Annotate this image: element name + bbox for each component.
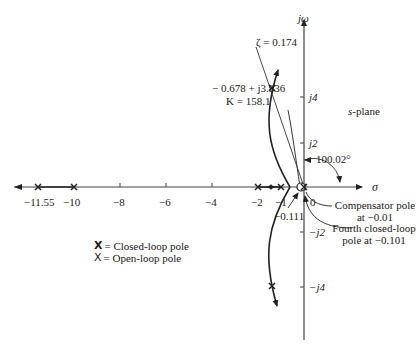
tick-neg-11-55: −11.55	[24, 196, 55, 208]
root-locus-plot	[0, 0, 418, 348]
point-label: − 0.678 + j3.836	[212, 82, 285, 94]
legend-open-loop-text: = Open-loop pole	[104, 252, 182, 264]
locus-branch-inner	[288, 110, 300, 187]
legend-closed-loop: X = Closed-loop pole	[94, 240, 189, 252]
compensator-line1: Compensator pole	[330, 199, 418, 211]
zeta-label: ζ = 0.174	[256, 36, 297, 48]
fourth-line1: Fourth closed-loop	[326, 222, 418, 234]
real-axis-left-arrow-icon	[14, 184, 22, 190]
tick-neg-8: −8	[113, 196, 125, 208]
imag-axis-label: jω	[298, 12, 309, 24]
tick-neg-6: −6	[159, 196, 171, 208]
angle-label: 100.02°	[316, 153, 351, 165]
compensator-label: Compensator pole at −0.01	[330, 199, 418, 223]
tick-neg-j2: −j2	[309, 226, 325, 238]
legend: X = Closed-loop pole X = Open-loop pole	[94, 240, 189, 264]
tick-j2: j2	[309, 137, 318, 149]
tick-j4: j4	[309, 91, 318, 103]
open-loop-pole-icon: X	[94, 252, 102, 264]
fourth-pole-label: Fourth closed-loop pole at −0.101	[326, 222, 418, 246]
tick-neg-j4: −j4	[309, 281, 325, 293]
legend-open-loop: X = Open-loop pole	[94, 252, 189, 264]
zero-pointer	[288, 193, 298, 208]
real-axis-label: σ	[372, 181, 378, 193]
tick-neg-10: −10	[63, 196, 80, 208]
tick-neg-1: −1	[275, 196, 287, 208]
tick-neg-4: −4	[205, 196, 217, 208]
gain-label: K = 158.1	[226, 95, 270, 107]
angle-arrow-icon	[304, 157, 311, 163]
legend-closed-loop-text: = Closed-loop pole	[104, 240, 188, 252]
tick-neg-2: −2	[251, 196, 263, 208]
fourth-line2: pole at −0.101	[326, 234, 418, 246]
locus-arrow-icon	[270, 185, 276, 190]
zero-value-label: −0.111	[274, 210, 304, 222]
tick-zero: 0	[310, 196, 316, 208]
plane-label: s-plane	[348, 105, 380, 117]
